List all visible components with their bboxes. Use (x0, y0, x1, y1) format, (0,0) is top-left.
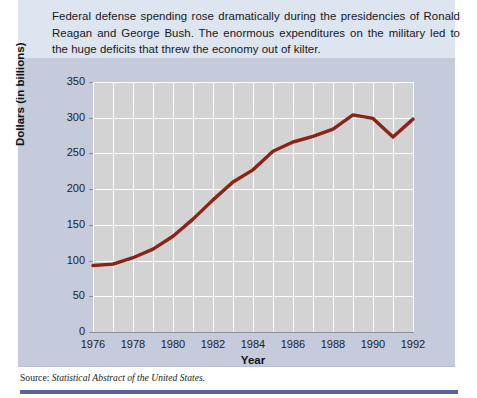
y-tick-label: 100 (51, 254, 85, 266)
y-axis-title: Dollars (in billions) (14, 42, 26, 146)
caption-band: Federal defense spending rose dramatical… (18, 0, 455, 58)
y-tick-label: 200 (51, 182, 85, 194)
x-axis-title: Year (93, 354, 413, 366)
bottom-rule (20, 390, 458, 394)
plot-area (93, 82, 413, 332)
x-axis-line (93, 332, 414, 333)
chart-panel: Dollars (in billions) Year 0501001502002… (18, 58, 455, 366)
figure-root: Federal defense spending rose dramatical… (0, 0, 477, 398)
source-prefix: Source: (20, 372, 49, 383)
x-tick-label: 1976 (71, 338, 115, 350)
source-divider (18, 366, 455, 367)
y-tick-label: 0 (51, 325, 85, 337)
series-layer (93, 82, 413, 332)
y-tick-label: 250 (51, 146, 85, 158)
source-note: Source: Statistical Abstract of the Unit… (20, 372, 205, 383)
x-tick-label: 1986 (271, 338, 315, 350)
x-tick-label: 1984 (231, 338, 275, 350)
y-tick-label: 50 (51, 289, 85, 301)
x-tick-label: 1982 (191, 338, 235, 350)
defense-spending-line (93, 115, 413, 266)
x-tick-label: 1980 (151, 338, 195, 350)
y-tick-label: 350 (51, 75, 85, 87)
y-tick-label: 150 (51, 218, 85, 230)
source-title: Statistical Abstract of the United State… (52, 372, 205, 383)
y-tick-label: 300 (51, 111, 85, 123)
x-tick-label: 1990 (351, 338, 395, 350)
x-tick-label: 1988 (311, 338, 355, 350)
x-tick-label: 1992 (391, 338, 435, 350)
caption-text: Federal defense spending rose dramatical… (52, 8, 460, 58)
x-tick-label: 1978 (111, 338, 155, 350)
